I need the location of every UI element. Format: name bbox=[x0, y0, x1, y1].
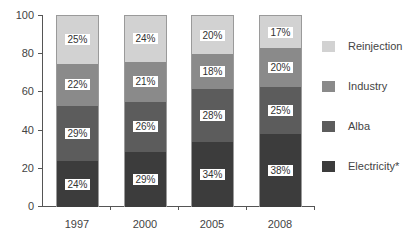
bar-segment-reinjection: 25% bbox=[57, 16, 98, 64]
bar-segment-reinjection: 17% bbox=[260, 16, 301, 48]
segment-value-label: 28% bbox=[200, 110, 224, 121]
legend-swatch bbox=[322, 161, 335, 172]
x-tick-label: 2005 bbox=[182, 218, 242, 230]
stacked-bar-chart: 020406080100 24%29%22%25%199729%26%21%24… bbox=[0, 0, 414, 243]
segment-value-label: 17% bbox=[268, 27, 292, 38]
bar-segment-electricity: 34% bbox=[192, 142, 233, 207]
bar-segment-electricity: 38% bbox=[260, 134, 301, 207]
bar-segment-alba: 29% bbox=[57, 106, 98, 161]
y-tick bbox=[38, 206, 43, 207]
y-tick-label: 100 bbox=[8, 9, 34, 21]
bar-2000: 29%26%21%24% bbox=[124, 15, 167, 207]
y-tick bbox=[38, 168, 43, 169]
legend-label: Reinjection bbox=[348, 40, 402, 52]
segment-value-label: 29% bbox=[133, 174, 157, 185]
segment-value-label: 24% bbox=[133, 33, 157, 44]
bar-segment-industry: 21% bbox=[125, 62, 166, 102]
x-tick bbox=[246, 206, 247, 210]
segment-value-label: 38% bbox=[268, 165, 292, 176]
x-tick-label: 1997 bbox=[47, 218, 107, 230]
legend-swatch bbox=[322, 121, 335, 132]
legend-item-reinjection: Reinjection bbox=[322, 40, 402, 52]
segment-value-label: 29% bbox=[65, 128, 89, 139]
bar-segment-industry: 18% bbox=[192, 54, 233, 88]
x-tick-label: 2008 bbox=[250, 218, 310, 230]
legend-swatch bbox=[322, 41, 335, 52]
segment-value-label: 24% bbox=[65, 179, 89, 190]
bar-segment-reinjection: 24% bbox=[125, 16, 166, 62]
x-tick bbox=[110, 206, 111, 210]
segment-value-label: 25% bbox=[65, 34, 89, 45]
x-tick-label: 2000 bbox=[115, 218, 175, 230]
y-tick bbox=[38, 53, 43, 54]
legend-label: Industry bbox=[348, 80, 387, 92]
legend-item-electricity: Electricity* bbox=[322, 160, 399, 172]
bar-2005: 34%28%18%20% bbox=[191, 15, 234, 207]
bar-2008: 38%25%20%17% bbox=[259, 15, 302, 207]
segment-value-label: 25% bbox=[268, 105, 292, 116]
y-tick-label: 0 bbox=[8, 200, 34, 212]
segment-value-label: 26% bbox=[133, 121, 157, 132]
bar-segment-alba: 28% bbox=[192, 89, 233, 142]
y-tick bbox=[38, 91, 43, 92]
bar-segment-industry: 20% bbox=[260, 48, 301, 86]
bar-segment-reinjection: 20% bbox=[192, 16, 233, 54]
bar-segment-industry: 22% bbox=[57, 64, 98, 106]
bar-segment-electricity: 24% bbox=[57, 161, 98, 207]
legend-label: Electricity* bbox=[348, 160, 399, 172]
bar-segment-electricity: 29% bbox=[125, 152, 166, 207]
y-tick bbox=[38, 15, 43, 16]
legend-item-alba: Alba bbox=[322, 120, 370, 132]
legend-item-industry: Industry bbox=[322, 80, 387, 92]
y-tick-label: 40 bbox=[8, 124, 34, 136]
bar-segment-alba: 26% bbox=[125, 102, 166, 152]
segment-value-label: 20% bbox=[268, 62, 292, 73]
y-tick-label: 80 bbox=[8, 47, 34, 59]
legend-swatch bbox=[322, 81, 335, 92]
x-tick bbox=[314, 206, 315, 210]
y-tick-label: 20 bbox=[8, 162, 34, 174]
bar-segment-alba: 25% bbox=[260, 87, 301, 135]
segment-value-label: 18% bbox=[200, 66, 224, 77]
x-tick bbox=[178, 206, 179, 210]
y-tick bbox=[38, 130, 43, 131]
segment-value-label: 21% bbox=[133, 76, 157, 87]
bar-1997: 24%29%22%25% bbox=[56, 15, 99, 207]
legend-label: Alba bbox=[348, 120, 370, 132]
y-axis bbox=[42, 15, 43, 207]
segment-value-label: 34% bbox=[200, 169, 224, 180]
segment-value-label: 22% bbox=[65, 79, 89, 90]
y-tick-label: 60 bbox=[8, 85, 34, 97]
segment-value-label: 20% bbox=[200, 30, 224, 41]
